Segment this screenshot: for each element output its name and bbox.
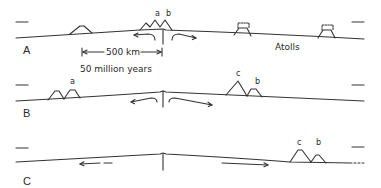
atolls-label: Atolls	[275, 43, 300, 52]
time-label: 50 million years	[80, 65, 152, 74]
peak-label-a: a	[155, 10, 160, 18]
panel-a-section	[16, 20, 364, 56]
peak-label-b: b	[255, 78, 260, 86]
panel-b-label: B	[23, 108, 30, 119]
spreading-arrow-right	[222, 163, 268, 165]
peak-c	[290, 150, 311, 162]
reef-cap	[322, 25, 333, 30]
atoll	[234, 28, 251, 36]
distance-label: 500 km	[106, 48, 140, 57]
peak-label-c: c	[297, 139, 301, 147]
panel-c-section	[16, 147, 364, 170]
spreading-arrow-right	[169, 98, 212, 105]
panel-b-section	[16, 81, 364, 107]
peak-label-a: a	[70, 78, 75, 86]
peak-label-b: b	[166, 10, 171, 18]
cross-section-drawing	[0, 0, 381, 188]
seafloor-profile-c	[16, 153, 352, 163]
seafloor-profile-a	[16, 29, 364, 39]
peak-c	[226, 81, 247, 96]
ridge-peaks	[140, 20, 172, 30]
peak-label-b: b	[316, 139, 321, 147]
peak-label-c: c	[236, 70, 240, 78]
panel-c-label: C	[23, 176, 31, 187]
seamount-b	[311, 155, 326, 163]
diagram: A a b 500 km 50 million years Atolls B a…	[0, 0, 381, 188]
spreading-arrow-left	[80, 163, 100, 164]
panel-a-label: A	[23, 45, 30, 56]
reef-cap	[238, 23, 249, 28]
